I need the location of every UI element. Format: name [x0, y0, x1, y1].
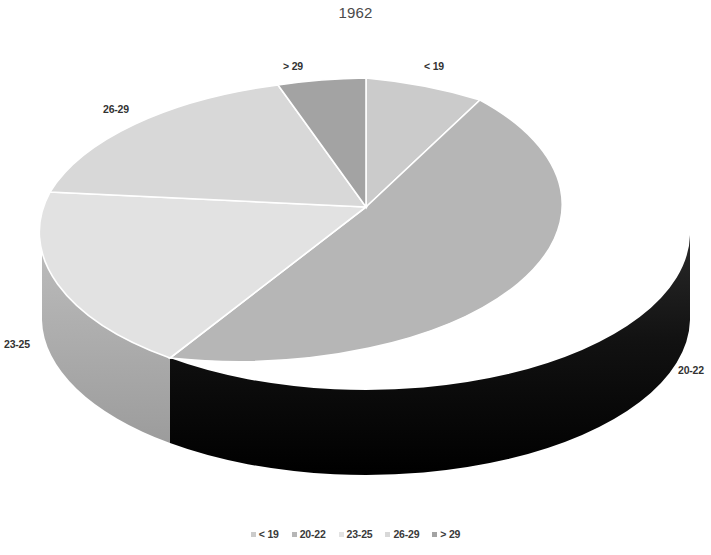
legend-swatch-icon [292, 532, 297, 537]
pie-label-lt19: < 19 [424, 60, 444, 72]
legend-item[interactable]: 20-22 [292, 528, 326, 540]
legend-swatch-icon [339, 532, 344, 537]
legend-swatch-icon [385, 532, 390, 537]
legend-item[interactable]: 23-25 [339, 528, 373, 540]
pie-chart-figure: 1962 [0, 0, 711, 555]
legend-item[interactable]: 26-29 [385, 528, 419, 540]
legend-item[interactable]: > 29 [432, 528, 460, 540]
legend-item-label: 23-25 [347, 528, 373, 540]
legend-item-label: 20-22 [300, 528, 326, 540]
legend-item-label: > 29 [440, 528, 460, 540]
legend-item-label: 26-29 [393, 528, 419, 540]
legend-swatch-icon [251, 532, 256, 537]
pie-label-23-25: 23-25 [4, 338, 30, 350]
legend-swatch-icon [432, 532, 437, 537]
pie-label-26-29: 26-29 [103, 103, 129, 115]
chart-legend: < 19 20-22 23-25 26-29 > 29 [0, 528, 711, 540]
legend-item-label: < 19 [259, 528, 279, 540]
pie-chart-canvas [0, 0, 711, 555]
legend-item[interactable]: < 19 [251, 528, 279, 540]
pie-label-gt29: > 29 [283, 60, 303, 72]
pie-label-20-22: 20-22 [678, 364, 704, 376]
pie-top-face [39, 78, 562, 362]
